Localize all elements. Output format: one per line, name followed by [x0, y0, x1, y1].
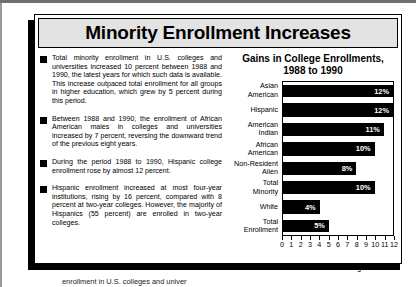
bar: 8% [283, 162, 356, 175]
page-background: Minority Enrollment Increases Total mino… [0, 0, 416, 287]
bullet-text: Between 1988 and 1990, the enrollment of… [52, 115, 222, 149]
bar-row: TotalEnrollment5% [228, 217, 394, 236]
axis-tick-label: 9 [364, 240, 368, 249]
axis-tick-label: 10 [371, 240, 379, 249]
page-left-rule [0, 3, 2, 287]
category-label-line: Minority [253, 188, 278, 196]
square-bullet-icon [40, 160, 47, 167]
x-axis-ticks: 0123456789101112 [282, 236, 394, 252]
bar-row: AfricanAmerican10% [228, 139, 394, 158]
category-label-line: Alien [262, 168, 278, 176]
category-label-line: American [248, 91, 278, 99]
axis-tick-label: 4 [317, 240, 321, 249]
axis-tick-label: 3 [308, 240, 312, 249]
clipped-footer-line: enrollment in U.S. colleges and univer [62, 279, 412, 287]
bar: 12% [283, 85, 393, 97]
bullet-text: Hispanic enrollment increased at most fo… [52, 184, 222, 227]
bar: 12% [283, 103, 393, 116]
axis-tick-label: 8 [355, 240, 359, 249]
bar-track: 12% [282, 81, 394, 100]
axis-spacer [228, 236, 282, 252]
bar-track: 11% [282, 120, 394, 139]
bar: 11% [283, 123, 384, 136]
x-axis: 0123456789101112 [228, 236, 394, 252]
category-label: AmericanIndian [228, 120, 282, 139]
bar-track: 8% [282, 159, 394, 178]
bar-row: AsianAmerican12% [228, 81, 394, 100]
bar: 10% [283, 142, 375, 155]
category-label-line: Enrollment [244, 226, 278, 234]
axis-tick-label: 0 [280, 240, 284, 249]
axis-tick-label: 2 [299, 240, 303, 249]
bar-track: 4% [282, 197, 394, 216]
axis-tick-label: 1 [289, 240, 293, 249]
bar-value-label: 11% [365, 125, 383, 134]
axis-tick-label: 5 [327, 240, 331, 249]
bar-value-label: 8% [342, 164, 357, 173]
bar-value-label: 5% [314, 221, 329, 230]
page-title: Minority Enrollment Increases [85, 22, 351, 44]
bar-rows: AsianAmerican12%Hispanic12%AmericanIndia… [228, 81, 394, 236]
bar-row: Non-ResidentAlien8% [228, 159, 394, 178]
bullet-list: Total minority enrollment in U.S. colleg… [40, 54, 222, 236]
category-label: Hispanic [228, 100, 282, 119]
bar-track: 12% [282, 100, 394, 119]
panel-title-banner: Minority Enrollment Increases [38, 18, 398, 48]
axis-tick-label: 11 [381, 240, 388, 249]
footer-text: enrollment in U.S. colleges and univer [62, 279, 186, 286]
category-label-line: Indian [258, 129, 278, 137]
bar: 10% [283, 181, 375, 194]
list-item: Hispanic enrollment increased at most fo… [40, 184, 222, 227]
square-bullet-icon [40, 117, 47, 124]
bar-value-label: 12% [374, 106, 393, 115]
bullet-text: During the period 1988 to 1990, Hispanic… [52, 158, 222, 175]
axis-tick-label: 7 [345, 240, 349, 249]
bar-value-label: 4% [305, 203, 320, 212]
panel-body: Total minority enrollment in U.S. colleg… [38, 51, 398, 260]
chart-title-line2: 1988 to 1990 [228, 65, 398, 77]
chart-title-line1: Gains in College Enrollments, [242, 53, 384, 64]
chart-title: Gains in College Enrollments, 1988 to 19… [228, 51, 398, 76]
bar-row: White4% [228, 197, 394, 216]
bar-row: AmericanIndian11% [228, 120, 394, 139]
square-bullet-icon [40, 186, 47, 193]
bar-chart: Gains in College Enrollments, 1988 to 19… [228, 51, 398, 260]
plot-area: AsianAmerican12%Hispanic12%AmericanIndia… [228, 81, 394, 260]
category-label: AfricanAmerican [228, 139, 282, 158]
bar-value-label: 10% [356, 144, 375, 153]
bar-track: 10% [282, 178, 394, 197]
category-label-line: American [248, 149, 278, 157]
bar-value-label: 10% [356, 183, 375, 192]
bar-row: TotalMinority10% [228, 178, 394, 197]
category-label: TotalEnrollment [228, 217, 282, 236]
bar-row: Hispanic12% [228, 100, 394, 119]
list-item: Total minority enrollment in U.S. colleg… [40, 54, 222, 106]
list-item: Between 1988 and 1990, the enrollment of… [40, 115, 222, 149]
info-panel: Minority Enrollment Increases Total mino… [34, 14, 402, 264]
page-top-rule [0, 0, 416, 3]
bar: 4% [283, 200, 320, 213]
category-label-line: White [260, 203, 278, 211]
square-bullet-icon [40, 56, 47, 63]
category-label: TotalMinority [228, 178, 282, 197]
bar: 5% [283, 220, 329, 232]
category-label: AsianAmerican [228, 81, 282, 100]
bar-track: 10% [282, 139, 394, 158]
category-label: White [228, 197, 282, 216]
category-label: Non-ResidentAlien [228, 159, 282, 178]
bar-track: 5% [282, 217, 394, 236]
axis-tick-label: 6 [336, 240, 340, 249]
category-label-line: Hispanic [250, 106, 278, 114]
bar-value-label: 12% [374, 87, 393, 96]
x-axis-label: Percent Change [228, 263, 394, 272]
axis-tick-label: 12 [390, 240, 398, 249]
bullet-text: Total minority enrollment in U.S. colleg… [52, 54, 222, 106]
list-item: During the period 1988 to 1990, Hispanic… [40, 158, 222, 175]
